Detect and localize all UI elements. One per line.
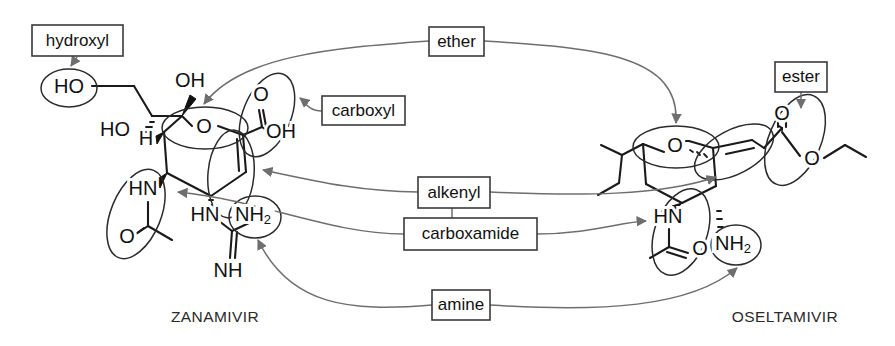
label-box-ether[interactable]: ether <box>429 27 484 56</box>
atom-label: HO <box>100 118 130 140</box>
label-box-ester[interactable]: ester <box>775 62 827 92</box>
atom-label: O <box>804 147 820 169</box>
zanamivir-alkenyl-double-bond <box>237 139 239 171</box>
oseltamivir-carboxamide-ellipse <box>641 181 721 283</box>
figure-canvas: HOHOOHOHHOHOHHOOOOOHOHHNHNOOHNHNNH2NH2NH… <box>0 0 895 346</box>
connector-amine-oseltamivir <box>490 268 737 308</box>
atom-label: O <box>667 134 683 156</box>
oseltamivir-alkenyl-double-bond <box>713 140 764 154</box>
atom-label: O <box>692 237 708 259</box>
label-box-text: alkenyl <box>428 183 481 202</box>
molecule-name-oseltamivir: OSELTAMIVIR <box>732 308 838 325</box>
atom-label: OH <box>175 69 205 91</box>
connector-alkenyl-zanamivir <box>263 170 418 192</box>
label-box-hydroxyl[interactable]: hydroxyl <box>32 25 123 56</box>
atom-label-subscript: 2 <box>264 212 271 227</box>
functional-group-label-layer: hydroxylcarboxyletheresteralkenylcarboxa… <box>32 25 827 320</box>
atom-label: NH <box>214 259 243 281</box>
oseltamivir-ester-ellipse <box>752 86 837 195</box>
connector-carboxamide-oseltamivir <box>537 221 646 234</box>
atom-label-subscript: 2 <box>744 241 751 256</box>
label-box-text: carboxamide <box>422 224 519 243</box>
connector-carboxyl <box>300 98 322 111</box>
label-box-text: carboxyl <box>332 101 395 120</box>
atom-label: HN <box>129 177 158 199</box>
atom-label: HO <box>54 75 84 97</box>
atom-label: O <box>196 115 212 137</box>
label-box-alkenyl[interactable]: alkenyl <box>418 177 490 208</box>
atom-label: HN <box>654 205 683 227</box>
label-box-text: amine <box>438 295 484 314</box>
connector-ether-zanamivir <box>204 41 429 104</box>
atom-label: O <box>119 225 135 247</box>
atom-label: HN <box>191 203 220 225</box>
label-box-carboxamide[interactable]: carboxamide <box>404 218 537 250</box>
label-box-text: hydroxyl <box>46 31 109 50</box>
label-box-carboxyl[interactable]: carboxyl <box>322 96 405 125</box>
molecule-name-zanamivir: ZANAMIVIR <box>171 308 259 325</box>
chemical-diagram-svg: HOHOOHOHHOHOHHOOOOOHOHHNHNOOHNHNNH2NH2NH… <box>0 0 895 346</box>
label-box-text: ester <box>782 67 820 86</box>
label-box-amine[interactable]: amine <box>432 290 490 320</box>
connector-ether-oseltamivir <box>484 41 676 123</box>
atom-label: O <box>774 102 790 124</box>
molecule-name-layer: ZANAMIVIROSELTAMIVIR <box>171 308 838 325</box>
connector-hydroxyl <box>71 57 77 66</box>
wedge-oh <box>182 95 196 116</box>
atom-label: H <box>139 127 153 149</box>
hash-wedge-amine-oseltamivir <box>717 211 723 227</box>
atom-label: OH <box>266 120 296 142</box>
atom-label: O <box>253 83 269 105</box>
label-box-text: ether <box>437 32 476 51</box>
